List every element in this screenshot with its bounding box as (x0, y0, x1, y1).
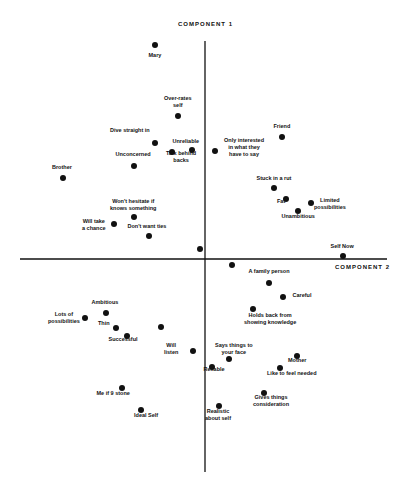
point-label: Reliable (204, 366, 225, 373)
point-label: Won't hesitate if knows something (110, 198, 156, 212)
data-point (111, 221, 117, 227)
point-label: Fat (277, 198, 285, 205)
data-point (340, 253, 346, 259)
point-label: Ambitious (92, 299, 119, 306)
point-label: Unambitious (282, 213, 315, 220)
point-label: A family person (249, 268, 290, 275)
data-point (175, 113, 181, 119)
scatter-plot: COMPONENT 1 COMPONENT 2 MaryOver-rates s… (0, 0, 409, 500)
plot-canvas (0, 0, 409, 500)
point-label: Talk behind backs (166, 150, 196, 164)
point-label: Don't want ties (128, 223, 167, 230)
point-label: Successful (109, 336, 138, 343)
point-label: Limited possibilities (314, 197, 346, 211)
point-label: Stuck in a rut (257, 175, 292, 182)
x-axis-title: COMPONENT 2 (335, 264, 390, 270)
data-point (146, 233, 152, 239)
point-label: Lots of possibilities (48, 311, 80, 325)
point-label: Unconcerned (116, 151, 151, 158)
data-point (229, 262, 235, 268)
point-label: Friend (274, 123, 291, 130)
data-point (103, 310, 109, 316)
point-label: Dive straight in (110, 127, 150, 134)
data-point (60, 175, 66, 181)
point-label: Only interested in what they have to say (224, 137, 264, 158)
point-label: Ideal Self (134, 412, 158, 419)
data-point (271, 185, 277, 191)
point-label: Mary (149, 52, 162, 59)
data-point (190, 348, 196, 354)
data-point (131, 214, 137, 220)
point-label: Brother (52, 164, 72, 171)
point-label: Me if 9 stone (97, 390, 130, 397)
data-point (280, 294, 286, 300)
data-point (113, 325, 119, 331)
point-label: Will take a chance (82, 218, 106, 232)
point-label: Says things to your face (215, 342, 253, 356)
point-label: Like to feel needed (267, 370, 317, 377)
point-label: Over-rates self (164, 95, 192, 109)
data-point (152, 140, 158, 146)
data-point (82, 315, 88, 321)
point-label: Unreliable (173, 138, 200, 145)
data-point (279, 134, 285, 140)
point-label: Gives things consideration (253, 394, 289, 408)
data-point (131, 163, 137, 169)
data-point (152, 42, 158, 48)
data-point (266, 280, 272, 286)
data-point (158, 324, 164, 330)
data-point (197, 246, 203, 252)
point-label: Careful (293, 292, 312, 299)
data-point (226, 356, 232, 362)
data-point (212, 148, 218, 154)
point-label: Self Now (331, 243, 354, 250)
point-label: Mother (288, 357, 306, 364)
point-label: Will listen (164, 342, 178, 356)
point-label: Realistic about self (205, 408, 231, 422)
point-label: Holds back from showing knowledge (244, 312, 296, 326)
point-label: Thin (98, 320, 110, 327)
y-axis-title: COMPONENT 1 (178, 21, 233, 27)
